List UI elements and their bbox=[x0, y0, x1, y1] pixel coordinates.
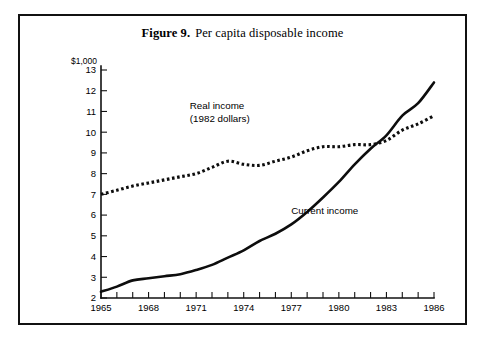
figure-number: Figure 9. bbox=[142, 26, 191, 40]
figure-frame: Figure 9.Per capita disposable income bbox=[18, 14, 467, 325]
figure-caption: Per capita disposable income bbox=[195, 26, 343, 40]
figure-title: Figure 9.Per capita disposable income bbox=[20, 26, 465, 41]
